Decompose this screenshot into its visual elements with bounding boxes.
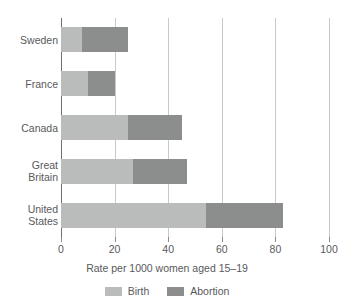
bar-segment-abortion — [206, 203, 284, 228]
bar-segment-birth — [61, 71, 88, 96]
tick-mark-20 — [115, 237, 116, 242]
tick-label-80: 80 — [270, 243, 282, 255]
category-axis-labels: Sweden France Canada Great Britain Unite… — [0, 18, 58, 237]
bar-segment-birth — [61, 27, 82, 52]
tick-label-100: 100 — [320, 243, 338, 255]
category-label-france: France — [0, 78, 58, 90]
legend-item-birth: Birth — [105, 285, 150, 297]
legend-item-abortion: Abortion — [167, 285, 229, 297]
legend-label-birth: Birth — [128, 285, 150, 297]
tick-label-40: 40 — [162, 243, 174, 255]
chart-legend: Birth Abortion — [0, 285, 334, 297]
category-label-sweden: Sweden — [0, 34, 58, 46]
legend-swatch-abortion — [167, 287, 184, 296]
category-label-great-britain: Great Britain — [0, 159, 58, 183]
bar-segment-abortion — [82, 27, 128, 52]
x-axis-title: Rate per 1000 women aged 15–19 — [0, 262, 334, 274]
bar-segment-birth — [61, 203, 206, 228]
tick-label-20: 20 — [109, 243, 121, 255]
tick-mark-80 — [275, 237, 276, 242]
tick-mark-0 — [61, 237, 62, 242]
category-label-canada: Canada — [0, 122, 58, 134]
gridline-100 — [329, 18, 330, 237]
bar-segment-abortion — [133, 159, 187, 184]
legend-swatch-birth — [105, 287, 122, 296]
bar-segment-abortion — [128, 115, 182, 140]
bar-segment-abortion — [88, 71, 115, 96]
tick-mark-40 — [168, 237, 169, 242]
bar-segment-birth — [61, 115, 128, 140]
legend-label-abortion: Abortion — [190, 285, 229, 297]
category-label-united-states: United States — [0, 203, 58, 227]
tick-mark-60 — [222, 237, 223, 242]
tick-mark-100 — [329, 237, 330, 242]
tick-label-60: 60 — [216, 243, 228, 255]
tick-label-0: 0 — [58, 243, 64, 255]
bar-segment-birth — [61, 159, 133, 184]
plot-area — [61, 18, 329, 237]
